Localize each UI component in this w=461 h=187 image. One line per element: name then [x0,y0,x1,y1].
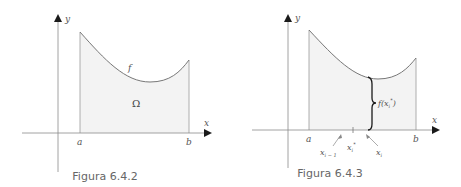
x-axis-label: x [432,115,437,125]
y-axis-label: y [64,14,71,24]
x-i-label: xi [376,148,383,158]
pointer-x-i [368,136,378,146]
a-label: a [77,137,82,147]
region-omega [80,32,189,133]
pointer-x-prev-arrow-icon [338,134,342,139]
x-prev-label: xi − 1 [320,148,337,158]
figures-canvas: y x a b f Ω Figura 6.4.2 y x a b f(xi*) [0,0,461,187]
figure-6-4-2: y x a b f Ω Figura 6.4.2 [22,14,212,183]
x-axis-arrow-icon [432,126,440,134]
a-label: a [306,134,311,144]
height-label: f(xi*) [377,97,396,109]
figure-caption: Figura 6.4.3 [297,167,362,180]
y-axis-arrow-icon [284,14,292,22]
y-axis-arrow-icon [54,14,62,22]
x-star-label: xi* [347,141,356,153]
function-label: f [127,63,133,73]
b-label: b [413,134,419,144]
figure-6-4-3: y x a b f(xi*) xi − 1 xi* xi Figura 6.4.… [252,13,440,180]
x-axis-arrow-icon [204,129,212,137]
b-label: b [186,137,192,147]
region-under-curve [309,30,416,130]
region-label: Ω [132,98,140,109]
figure-caption: Figura 6.4.2 [72,170,137,183]
y-axis-label: y [294,13,301,23]
x-axis-label: x [204,118,209,128]
pointer-x-i-arrow-icon [366,134,370,139]
